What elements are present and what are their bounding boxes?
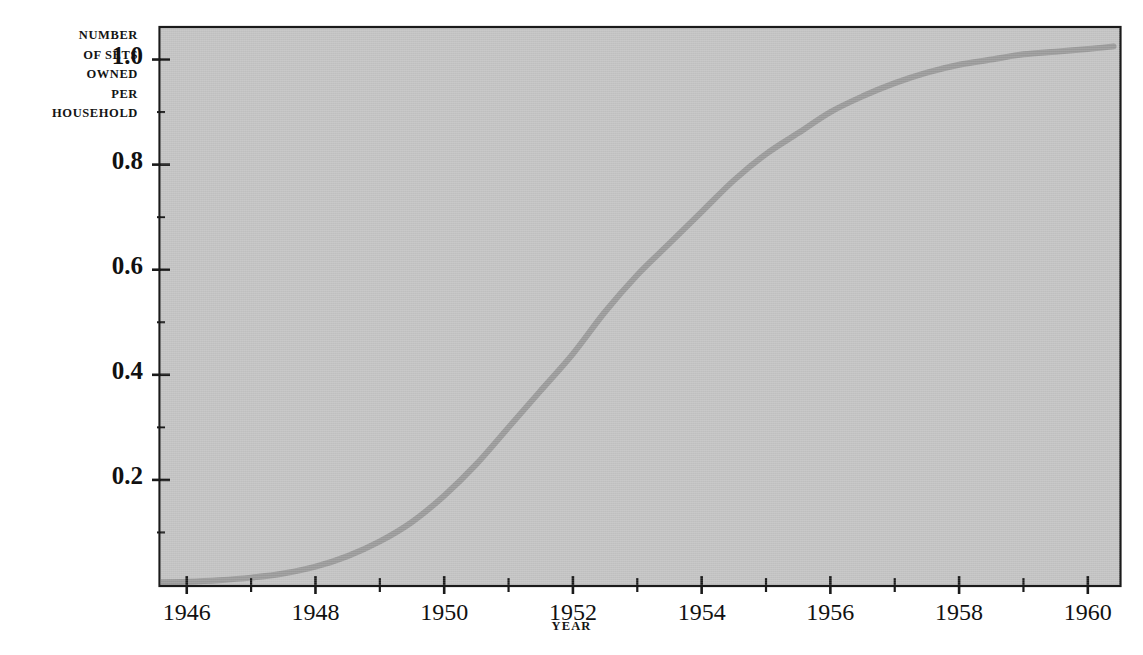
y-tick-label: 0.6	[91, 252, 143, 280]
y-tick-label: 0.2	[91, 462, 143, 490]
y-tick-label: 1.0	[91, 42, 143, 70]
y-tick-label: 0.4	[91, 357, 143, 385]
y-tick-label: 0.8	[91, 147, 143, 175]
chart-figure: NUMBER OF SETS OWNED PER HOUSEHOLD 0.20.…	[0, 0, 1143, 655]
x-axis-title: YEAR	[0, 619, 1143, 634]
plot-area	[0, 0, 1143, 655]
plot-background	[161, 28, 1120, 585]
